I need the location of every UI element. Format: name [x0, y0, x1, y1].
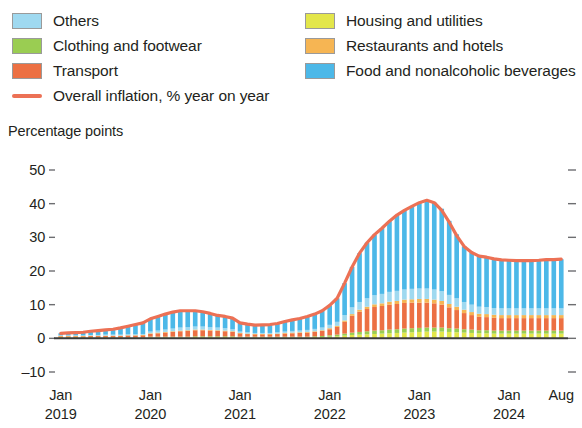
bar-segment	[193, 327, 198, 330]
bar-segment	[335, 326, 340, 327]
bar-segment	[365, 309, 370, 331]
bar-segment	[507, 315, 512, 318]
bar-segment	[454, 329, 459, 333]
legend-item-transport: Transport	[12, 58, 312, 83]
legend-swatch-others-icon	[12, 13, 42, 29]
bar-segment	[223, 331, 228, 332]
bar-segment	[208, 331, 213, 337]
bar-segment	[395, 304, 400, 329]
bar-segment	[417, 203, 422, 289]
bar-segment	[215, 336, 220, 337]
bar-segment	[66, 336, 71, 337]
bar-segment	[215, 330, 220, 331]
bar-segment	[357, 310, 362, 312]
bar-segment	[357, 312, 362, 332]
bar-segment	[260, 337, 265, 338]
bar-segment	[141, 335, 146, 337]
bar-segment	[469, 315, 474, 329]
bar-segment	[342, 322, 347, 334]
legend-label-food-and-nonalcoholic-beverages: Food and nonalcoholic beverages	[346, 62, 576, 79]
bar-segment	[551, 260, 556, 309]
bar-series-group	[58, 200, 563, 338]
bar-segment	[58, 335, 63, 336]
bar-segment	[432, 203, 437, 290]
bar-segment	[357, 332, 362, 335]
bar-segment	[88, 336, 93, 337]
bar-segment	[283, 334, 288, 337]
bar-segment	[492, 259, 497, 308]
bar-segment	[253, 334, 258, 336]
bar-segment	[297, 332, 302, 333]
legend-column-left: Others Clothing and footwear Transport O…	[12, 8, 312, 108]
bar-segment	[327, 335, 332, 336]
bar-segment	[432, 300, 437, 304]
bar-segment	[193, 330, 198, 331]
bar-segment	[230, 336, 235, 337]
bar-segment	[514, 308, 519, 315]
x-axis-tick-month: Jan	[120, 386, 180, 405]
stacked-bar-chart-svg: 50403020100–10	[0, 145, 582, 380]
x-axis-tick-2022: Jan2022	[300, 386, 360, 424]
y-axis-tick-label: 30	[29, 229, 45, 245]
bar-segment	[462, 329, 467, 332]
bar-segment	[208, 330, 213, 331]
bar-segment	[297, 331, 302, 333]
bar-segment	[253, 333, 258, 334]
bar-segment	[462, 246, 467, 302]
bar-segment	[312, 329, 317, 331]
x-axis-tick-2024: Jan2024	[479, 386, 539, 424]
bar-segment	[514, 318, 519, 330]
bar-segment	[268, 333, 273, 334]
bar-segment	[454, 298, 459, 306]
bar-segment	[499, 308, 504, 315]
bar-segment	[268, 334, 273, 336]
bar-segment	[312, 332, 317, 336]
bar-segment	[529, 261, 534, 309]
bar-segment	[253, 334, 258, 335]
bar-segment	[559, 318, 564, 330]
bar-segment	[305, 337, 310, 338]
bar-segment	[469, 252, 474, 304]
bar-segment	[312, 314, 317, 329]
legend-label-restaurants-and-hotels: Restaurants and hotels	[346, 37, 503, 54]
bar-segment	[365, 298, 370, 306]
bar-segment	[268, 334, 273, 335]
bar-segment	[81, 335, 86, 336]
bar-segment	[170, 337, 175, 338]
bar-segment	[283, 332, 288, 333]
chart-plot-area: 50403020100–10	[0, 145, 582, 380]
bar-segment	[469, 312, 474, 315]
bar-segment	[103, 336, 108, 337]
bar-segment	[111, 335, 116, 336]
bar-segment	[350, 314, 355, 316]
y-axis-tick-label: 20	[29, 263, 45, 279]
bar-segment	[193, 311, 198, 327]
bar-segment	[305, 333, 310, 337]
bar-segment	[499, 318, 504, 330]
bar-segment	[283, 333, 288, 334]
bar-segment	[372, 235, 377, 296]
x-axis-tick-year: 2023	[389, 405, 449, 424]
bar-segment	[193, 336, 198, 337]
bar-segment	[275, 337, 280, 338]
bar-segment	[163, 332, 168, 333]
bar-segment	[424, 289, 429, 299]
bar-segment	[417, 328, 422, 332]
bar-segment	[200, 327, 205, 330]
bar-segment	[507, 331, 512, 334]
bar-segment	[163, 333, 168, 337]
bar-segment	[305, 332, 310, 333]
bar-segment	[350, 316, 355, 333]
bar-segment	[380, 228, 385, 294]
y-axis-title: Percentage points	[8, 123, 123, 139]
legend-swatch-restaurants-and-hotels-icon	[305, 38, 335, 54]
x-axis-tick-month: Jan	[300, 386, 360, 405]
bar-segment	[559, 308, 564, 315]
bar-segment	[477, 330, 482, 333]
bar-segment	[170, 329, 175, 332]
y-axis-ticks-right	[568, 170, 576, 372]
bar-segment	[185, 330, 190, 331]
bar-segment	[103, 335, 108, 336]
bar-segment	[522, 315, 527, 318]
bar-segment	[529, 331, 534, 334]
